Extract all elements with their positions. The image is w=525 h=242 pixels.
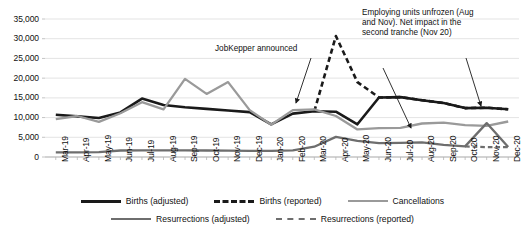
y-axis-tick-label: 25,000: [0, 53, 39, 63]
x-axis-tick-label: Dec-19: [254, 136, 264, 162]
x-axis-tick-label: Feb-20: [297, 136, 307, 162]
x-axis-tick-label: Jul-20: [405, 140, 415, 162]
x-axis-tick-label: Apr-20: [340, 138, 350, 162]
chart-container: 05,00010,00015,00020,00025,00030,00035,0…: [0, 0, 525, 242]
legend-label: Cancellations: [393, 196, 445, 206]
x-axis-tick-label: Apr-19: [81, 138, 91, 162]
legend-swatch: [81, 200, 121, 203]
annotation-line: Employing units unfrozen (Aug: [362, 8, 512, 18]
y-axis-tick-label: 30,000: [0, 33, 39, 43]
legend-item-cancellations[interactable]: Cancellations: [348, 196, 445, 206]
y-axis-tick-label: 5,000: [0, 132, 39, 142]
legend-swatch: [214, 200, 254, 203]
legend-item-resurrections-adjusted[interactable]: Resurrections (adjusted): [111, 214, 250, 224]
legend-swatch: [276, 218, 316, 220]
x-axis-tick-label: Sep-19: [189, 136, 199, 162]
x-axis-tick-label: Nov-19: [232, 136, 242, 162]
legend-item-births-adjusted[interactable]: Births (adjusted): [81, 196, 189, 206]
legend-item-births-reported[interactable]: Births (reported): [214, 196, 321, 206]
annotation-jobkeeper: JobKepper announced: [215, 44, 335, 54]
legend-label: Resurrections (adjusted): [156, 214, 250, 224]
x-axis-tick-label: Jan-20: [275, 137, 285, 162]
annotation-line: second tranche (Nov 20): [362, 28, 512, 38]
x-axis-tick-label: Sep-20: [448, 136, 458, 162]
x-axis-tick-label: Oct-19: [211, 138, 221, 162]
y-axis-tick-label: 20,000: [0, 73, 39, 83]
x-axis-tick-label: May-19: [103, 135, 113, 162]
x-axis-tick-label: May-20: [361, 135, 371, 162]
series-line-cancellations: [56, 79, 508, 129]
annotation-line: JobKepper announced: [215, 44, 335, 54]
legend-row-secondary: Resurrections (adjusted)Resurrections (r…: [0, 210, 525, 228]
x-axis-tick-label: Jun-19: [124, 137, 134, 162]
x-axis-tick-label: Nov-20: [491, 136, 501, 162]
legend-row-primary: Births (adjusted)Births (reported)Cancel…: [0, 192, 525, 210]
x-axis-tick-label: Mar-20: [318, 136, 328, 162]
y-axis-tick-label: 15,000: [0, 92, 39, 102]
legend-label: Births (adjusted): [126, 196, 189, 206]
x-axis-tick-label: Aug-20: [426, 136, 436, 162]
legend-item-resurrections-reported[interactable]: Resurrections (reported): [276, 214, 414, 224]
y-axis-tick-label: 0: [0, 152, 39, 162]
annotation-arrow-1: [296, 58, 311, 103]
y-axis-tick-label: 35,000: [0, 14, 39, 24]
x-axis-tick-label: Oct-20: [469, 138, 479, 162]
y-axis-tick-label: 10,000: [0, 112, 39, 122]
legend-swatch: [348, 200, 388, 202]
chart-legend: Births (adjusted)Births (reported)Cancel…: [0, 192, 525, 228]
annotation-unfrozen: Employing units unfrozen (Augand Nov). N…: [362, 8, 512, 39]
annotation-line: and Nov). Net impact in the: [362, 18, 512, 28]
x-axis-tick-label: Dec-20: [512, 136, 522, 162]
x-axis-tick-label: Jun-20: [383, 137, 393, 162]
legend-swatch: [111, 218, 151, 220]
legend-label: Births (reported): [259, 196, 321, 206]
x-axis-tick-label: Jul-19: [146, 140, 156, 162]
x-axis-tick-label: Mar-19: [60, 136, 70, 162]
legend-label: Resurrections (reported): [321, 214, 414, 224]
x-axis-tick-label: Aug-19: [168, 136, 178, 162]
annotation-arrow-3: [466, 58, 481, 106]
